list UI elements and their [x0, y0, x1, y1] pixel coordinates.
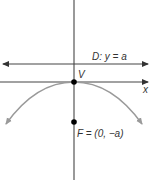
directrix-label: D: y = a [92, 51, 127, 62]
parabola-diagram: D: y = a V x F = (0, −a) [0, 0, 152, 180]
vertex-point [71, 79, 77, 85]
parabola-curve-right [74, 82, 142, 124]
focus-point [71, 119, 77, 125]
parabola-curve-left [6, 82, 74, 124]
x-axis-label: x [142, 84, 149, 95]
focus-label: F = (0, −a) [77, 128, 124, 139]
vertex-label: V [78, 69, 86, 80]
